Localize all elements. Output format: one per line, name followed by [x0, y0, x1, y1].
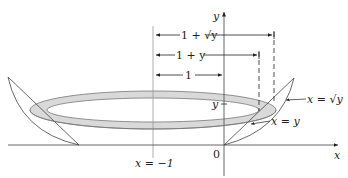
axis-distance-label: 1 — [185, 69, 192, 82]
line-label: x = y — [271, 115, 300, 128]
x-axis-label: x — [334, 149, 341, 162]
origin-label: 0 — [213, 148, 220, 161]
dimension-inner-radius — [156, 51, 259, 59]
washer-method-diagram: y x 0 x = −1 1 + √y 1 + y 1 y x = √y x =… — [0, 0, 348, 178]
vertical-line-label: x = −1 — [135, 157, 174, 170]
inner-radius-label: 1 + y — [176, 49, 206, 62]
sqrt-curve-pointer — [286, 99, 306, 100]
y-axis-label: y — [212, 10, 220, 23]
height-label: y — [211, 98, 219, 111]
sqrt-curve-label: x = √y — [307, 93, 343, 106]
outer-radius-label: 1 + √y — [181, 29, 218, 42]
